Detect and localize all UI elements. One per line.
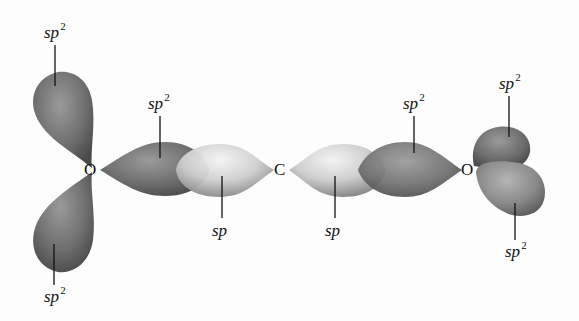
c-left-sp-lobe <box>176 144 274 197</box>
o-right-lower-sp2-lobe <box>476 161 545 216</box>
o-left-lower-sp2-lobe <box>33 172 94 272</box>
label-o-right-upper: sp2 <box>499 75 521 92</box>
label-o-right-bond: sp2 <box>403 95 425 112</box>
label-o-right-lower: sp2 <box>505 243 527 260</box>
label-o-left-bond: sp2 <box>148 95 170 112</box>
atom-oxygen-left: O <box>84 161 96 178</box>
label-c-right-bond: sp <box>325 222 340 239</box>
o-right-bond-sp2-lobe <box>358 142 462 197</box>
label-c-left-bond: sp <box>212 222 227 239</box>
atom-carbon-center: C <box>274 161 285 178</box>
label-o-left-upper: sp2 <box>44 24 66 41</box>
label-o-left-lower: sp2 <box>44 288 66 305</box>
atom-oxygen-right: O <box>461 161 473 178</box>
o-left-upper-sp2-lobe <box>33 72 93 168</box>
